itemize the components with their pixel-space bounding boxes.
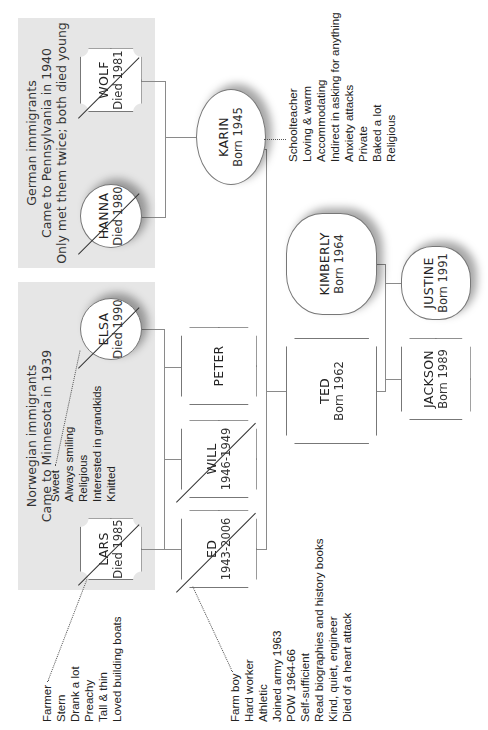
caption-line: Norwegian immigrants — [24, 282, 39, 590]
note-leader-karin — [264, 138, 286, 140]
note-line: Indirect in asking for anything — [328, 12, 342, 162]
note-line: Hard worker — [242, 539, 256, 722]
marriage-line-hanna-wolf — [165, 81, 166, 218]
person-name: TED — [318, 378, 332, 404]
note-line: Tall & thin — [96, 617, 110, 723]
person-justine[interactable]: JUSTINE Born 1991 — [401, 246, 471, 320]
child-line-will — [164, 459, 181, 460]
notes-elsa: Sweet Always smiling Religious Intereste… — [48, 386, 118, 502]
person-date: Died 1980 — [111, 186, 125, 245]
notes-ed: Farm boy Hard worker Athletic Joined arm… — [228, 539, 354, 722]
child-line-ed — [164, 549, 181, 550]
child-line-peter — [164, 367, 181, 368]
person-ted[interactable]: TED Born 1962 — [286, 338, 377, 444]
note-line: Farm boy — [228, 539, 242, 722]
note-line: Religious — [76, 386, 90, 502]
note-line: Baked a lot — [370, 12, 384, 162]
person-date: 1946-1949 — [219, 428, 233, 491]
note-line: Joined army 1963 — [270, 539, 284, 722]
person-date: Died 1981 — [111, 50, 125, 109]
marriage-line-lars-elsa — [164, 329, 165, 550]
note-line: Drank a lot — [68, 617, 82, 723]
person-name: KIMBERLY — [318, 232, 332, 295]
person-elsa[interactable]: ELSA Died 1990 — [80, 298, 142, 360]
note-line: Kind, quiet, engineer — [326, 539, 340, 722]
note-line: Loving & warm — [300, 12, 314, 162]
person-date: Born 1964 — [332, 234, 346, 294]
note-line: Died of a heart attack — [340, 539, 354, 722]
child-line-karin — [165, 137, 196, 138]
note-line: Private — [356, 12, 370, 162]
marriage-line-hanna-wolf — [141, 81, 166, 82]
caption-line: German immigrants — [24, 18, 39, 268]
note-line: Read biographies and history books — [312, 539, 326, 722]
person-karin[interactable]: KARIN Born 1945 — [196, 89, 266, 185]
caption-line: Came to Pennsylvania in 1940 — [39, 18, 54, 268]
child-line-ted — [266, 391, 286, 392]
child-line-justine — [385, 283, 401, 284]
note-line: Self-sufficient — [298, 539, 312, 722]
person-date: Born 1962 — [332, 361, 346, 421]
person-date: Born 1989 — [436, 349, 450, 409]
note-line: Preachy — [82, 617, 96, 723]
note-line: Religious — [384, 12, 398, 162]
note-line: Accommodating — [314, 12, 328, 162]
person-name: KARIN — [217, 117, 231, 157]
note-line: Loved building boats — [110, 617, 124, 723]
person-date: Born 1945 — [231, 107, 245, 167]
note-line: Athletic — [256, 539, 270, 722]
person-hanna[interactable]: HANNA Died 1980 — [80, 184, 142, 248]
marriage-line-ed-karin — [266, 149, 267, 550]
person-name: LARS — [97, 532, 111, 566]
child-line-jackson — [385, 379, 401, 380]
marriage-line-lars-elsa — [141, 329, 165, 330]
person-name: JACKSON — [422, 350, 436, 408]
note-line: Interested in grandkids — [90, 386, 104, 502]
caption-line: Only met them twice; both died young — [54, 18, 69, 268]
note-line: POW 1964-66 — [284, 539, 298, 722]
person-lars[interactable]: LARS Died 1985 — [80, 518, 142, 580]
person-date: Born 1991 — [436, 253, 450, 313]
notes-karin: Schoolteacher Loving & warm Accommodatin… — [286, 12, 398, 162]
note-leader-ed — [192, 586, 233, 672]
genogram-diagram: Norwegian immigrants Came to Minnesota i… — [0, 0, 488, 730]
person-name: JUSTINE — [422, 257, 436, 308]
marriage-line-hanna-wolf — [141, 217, 166, 218]
person-name: PETER — [212, 345, 226, 386]
german-group-caption: German immigrants Came to Pennsylvania i… — [24, 18, 69, 268]
person-jackson[interactable]: JACKSON Born 1989 — [401, 338, 471, 420]
person-kimberly[interactable]: KIMBERLY Born 1964 — [286, 213, 377, 315]
marriage-line-lars-elsa — [141, 549, 165, 550]
note-line: Anxiety attacks — [342, 12, 356, 162]
person-peter[interactable]: PETER — [181, 327, 257, 405]
person-wolf[interactable]: WOLF Died 1981 — [80, 48, 142, 112]
note-line: Schoolteacher — [286, 12, 300, 162]
note-line: Knitted — [104, 386, 118, 502]
